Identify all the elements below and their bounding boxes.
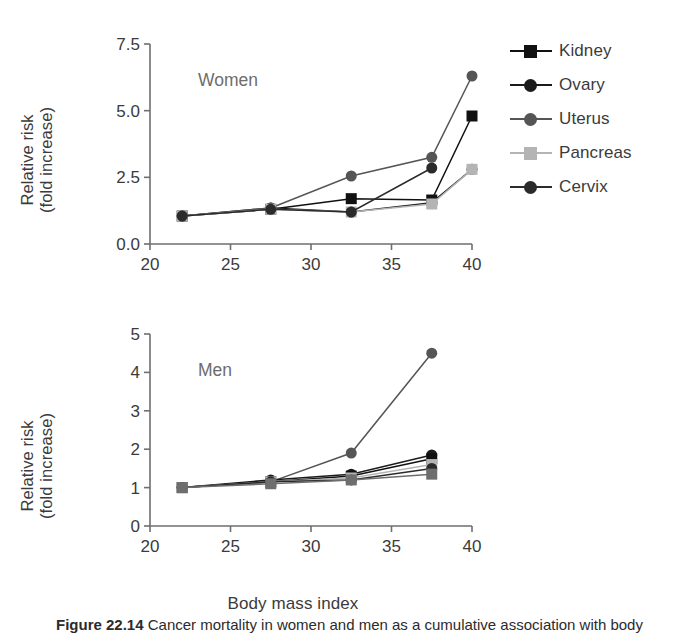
svg-text:40: 40 [463,537,482,556]
legend-women: KidneyOvaryUterusPancreasCervix [510,34,632,204]
figure-caption-number: Figure 22.14 [56,616,144,633]
figure-caption-text: Cancer mortality in women and men as a c… [148,616,643,633]
plot-area-men: 0123452025303540Men [108,328,478,560]
figure-caption: Figure 22.14 Cancer mortality in women a… [56,616,656,635]
legend-label: Kidney [559,41,612,61]
plot-area-women: 0.02.55.07.52025303540Women [108,38,478,278]
svg-text:3: 3 [131,402,140,421]
y-axis-label-line2: (fold increase) [37,30,56,290]
legend-item-cervix-4[interactable]: Cervix [510,170,632,204]
legend-item-pancreas-3[interactable]: Pancreas [510,136,632,170]
legend-label: Ovary [559,75,605,95]
svg-text:2: 2 [131,440,140,459]
legend-marker [524,181,537,194]
svg-text:35: 35 [382,255,401,274]
svg-text:30: 30 [302,537,321,556]
svg-text:Women: Women [198,70,258,90]
y-axis-label-women: Relative risk (fold increase) [18,30,57,290]
y-axis-label-line1: Relative risk [18,30,37,290]
legend-item-kidney-0[interactable]: Kidney [510,34,632,68]
svg-text:30: 30 [302,255,321,274]
legend-label: Uterus [559,109,610,129]
svg-text:2.5: 2.5 [116,168,140,187]
figure-container: Relative risk (fold increase) 0.02.55.07… [0,0,680,635]
chart-panel-women: Relative risk (fold increase) 0.02.55.07… [0,0,680,310]
legend-marker-circle-icon [510,179,552,195]
svg-text:Men: Men [198,360,232,380]
legend-item-ovary-1[interactable]: Ovary [510,68,632,102]
svg-text:0.0: 0.0 [116,235,140,254]
svg-text:35: 35 [382,537,401,556]
legend-marker [524,113,537,126]
legend-label: Cervix [559,177,608,197]
chart-panel-men: Relative risk (fold increase) 0123452025… [0,318,680,598]
legend-label: Pancreas [559,143,632,163]
x-axis-title: Body mass index [108,594,478,614]
svg-text:0: 0 [131,517,140,536]
y-axis-label-line2: (fold increase) [37,336,56,596]
legend-marker-circle-icon [510,111,552,127]
svg-text:25: 25 [221,255,240,274]
svg-text:25: 25 [221,537,240,556]
svg-text:5.0: 5.0 [116,102,140,121]
legend-marker-square-icon [510,43,552,59]
legend-marker [524,79,537,92]
svg-text:40: 40 [463,255,482,274]
svg-text:20: 20 [141,255,160,274]
svg-text:20: 20 [141,537,160,556]
svg-text:1: 1 [131,479,140,498]
svg-text:7.5: 7.5 [116,35,140,54]
svg-text:4: 4 [131,363,140,382]
line-chart-women: 0.02.55.07.52025303540Women [108,38,478,278]
line-chart-men: 0123452025303540Men [108,328,478,560]
legend-marker-square-icon [510,145,552,161]
legend-marker [524,147,537,160]
legend-marker [524,45,537,58]
svg-text:5: 5 [131,325,140,344]
legend-marker-circle-icon [510,77,552,93]
y-axis-label-line1: Relative risk [18,336,37,596]
legend-item-uterus-2[interactable]: Uterus [510,102,632,136]
y-axis-label-men: Relative risk (fold increase) [18,336,57,596]
